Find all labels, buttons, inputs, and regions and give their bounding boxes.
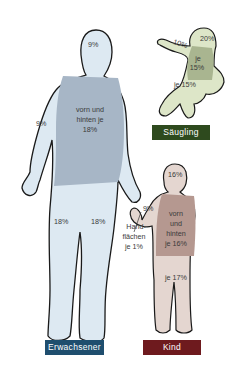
adult-torso-label-2: hinten je — [73, 116, 107, 125]
child-torso-label-2: und — [163, 220, 189, 229]
infant-badge: Säugling — [152, 125, 210, 140]
child-arm-label: 9% — [143, 205, 153, 214]
adult-figure — [22, 30, 141, 342]
child-torso-label-1: vorn — [163, 210, 189, 219]
palm-label-3: je 1% — [117, 243, 151, 252]
infant-head-label: 20% — [200, 35, 214, 44]
child-head-label: 16% — [168, 171, 182, 180]
adult-leg-right-label: 18% — [91, 218, 105, 227]
adult-badge: Erwachsener — [45, 340, 104, 355]
adult-arm-label: 9% — [36, 120, 46, 129]
child-torso-label-3: hinten — [163, 230, 189, 239]
adult-torso-label-3: 18% — [73, 126, 107, 135]
child-torso-label-4: je 16% — [161, 240, 191, 249]
infant-legs-label: je 15% — [174, 81, 196, 90]
palm-label-2: flächen — [117, 233, 151, 242]
adult-torso-label-1: vorn und — [73, 106, 107, 115]
infant-torso-label-2: 15% — [189, 64, 205, 73]
palm-label-1: Hand- — [119, 223, 153, 232]
adult-head-label: 9% — [88, 41, 98, 50]
child-badge: Kind — [143, 340, 201, 355]
adult-leg-left-label: 18% — [54, 218, 68, 227]
child-legs-label: je 17% — [165, 274, 187, 283]
